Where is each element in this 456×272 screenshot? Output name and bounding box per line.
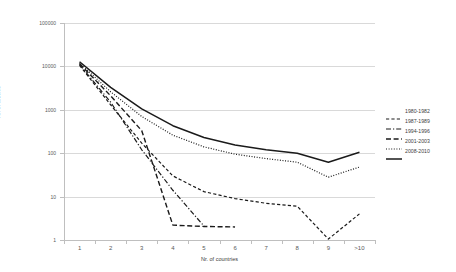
x-tick-label-6: 6 bbox=[222, 244, 248, 252]
x-tick-5 bbox=[220, 240, 221, 244]
y-tick-label-1000: 1000 bbox=[14, 107, 56, 113]
x-tick-8 bbox=[313, 240, 314, 244]
legend-label: 1980-1982 bbox=[405, 108, 430, 114]
y-tick-label-10000: 10000 bbox=[14, 63, 56, 69]
x-tick-4 bbox=[188, 240, 189, 244]
y-axis-title: Nr. of articles bbox=[0, 86, 1, 118]
x-tick-6 bbox=[251, 240, 252, 244]
chart-container: 100000 10000 1000 100 10 1 123456789>10 … bbox=[0, 0, 456, 272]
x-tick-label-2: 2 bbox=[98, 244, 124, 252]
x-tick-label-9: 9 bbox=[315, 244, 341, 252]
y-tick-label-10: 10 bbox=[14, 194, 56, 200]
x-tick-2 bbox=[126, 240, 127, 244]
legend-item-1994-1996[interactable]: 1994-1996 bbox=[386, 126, 456, 136]
legend-swatch-icon bbox=[386, 138, 402, 144]
y-tick-label-100: 100 bbox=[14, 150, 56, 156]
x-tick-label-5: 5 bbox=[191, 244, 217, 252]
series-line-2008-2010 bbox=[80, 62, 360, 162]
series-line-1994-1996 bbox=[80, 64, 236, 227]
x-tick-0 bbox=[64, 240, 65, 244]
x-tick-label-3: 3 bbox=[129, 244, 155, 252]
x-tick-label-8: 8 bbox=[284, 244, 310, 252]
y-tick-label-1: 1 bbox=[14, 237, 56, 243]
x-tick-10 bbox=[375, 240, 376, 244]
legend-item-1980-1982[interactable]: 1980-1982 bbox=[386, 106, 456, 116]
legend-item-2001-2003[interactable]: 2001-2003 bbox=[386, 136, 456, 146]
x-tick-7 bbox=[282, 240, 283, 244]
series-layer bbox=[64, 23, 375, 240]
x-axis-title: Nr. of countries bbox=[64, 256, 375, 262]
legend-label: 2001-2003 bbox=[405, 138, 430, 144]
x-tick-label-4: 4 bbox=[160, 244, 186, 252]
legend-swatch-icon bbox=[386, 118, 402, 124]
legend-swatch-icon bbox=[386, 108, 402, 114]
y-tick-label-100000: 100000 bbox=[14, 20, 56, 26]
legend-label: 1987-1989 bbox=[405, 118, 430, 124]
legend: 1980-19821987-19891994-19962001-20032008… bbox=[386, 106, 456, 156]
x-tick-label-7: 7 bbox=[253, 244, 279, 252]
series-line-2001-2003 bbox=[80, 63, 360, 177]
x-tick-1 bbox=[95, 240, 96, 244]
x-tick-9 bbox=[344, 240, 345, 244]
legend-label: 1994-1996 bbox=[405, 128, 430, 134]
legend-swatch-icon bbox=[386, 148, 402, 154]
series-line-1980-1982 bbox=[80, 65, 360, 239]
x-tick-label->10: >10 bbox=[346, 244, 372, 252]
x-tick-3 bbox=[157, 240, 158, 244]
legend-item-2008-2010[interactable]: 2008-2010 bbox=[386, 146, 456, 156]
x-tick-label-1: 1 bbox=[67, 244, 93, 252]
legend-label: 2008-2010 bbox=[405, 148, 430, 154]
legend-swatch-icon bbox=[386, 128, 402, 134]
legend-item-1987-1989[interactable]: 1987-1989 bbox=[386, 116, 456, 126]
